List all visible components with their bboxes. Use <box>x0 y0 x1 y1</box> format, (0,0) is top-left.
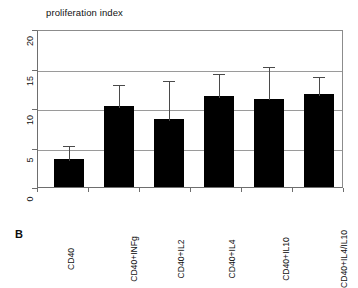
x-axis-tick-0 <box>37 188 38 192</box>
error-bar-stem-cd40-il2 <box>169 81 170 121</box>
panel-label: B <box>15 228 23 240</box>
error-bar-stem-cd40 <box>69 146 70 160</box>
x-axis-label-cd40-il2-text: CD40+IL2 <box>176 240 186 279</box>
x-axis-tick-6 <box>343 188 344 192</box>
x-axis-label-cd40-il4: CD40+IL4 <box>211 193 225 259</box>
error-bar-cap-cd40-il4 <box>213 74 225 75</box>
y-axis-label-0-text: 0 <box>24 188 36 210</box>
error-bar-cap-cd40-infg <box>113 85 125 86</box>
y-axis-label-5-text: 5 <box>24 149 36 171</box>
x-axis-tick-5 <box>292 188 293 192</box>
error-bar-cap-cd40 <box>63 146 75 147</box>
x-axis-tick-1 <box>88 188 89 192</box>
error-bar-cap-cd40-il10 <box>263 67 275 68</box>
x-axis-tick-4 <box>241 188 242 192</box>
x-axis-label-cd40-infg: CD40+INFg <box>109 193 123 259</box>
y-axis-label-0: 0 <box>8 182 30 194</box>
y-axis-label-10-text: 10 <box>24 109 36 131</box>
x-axis-label-cd40: CD40 <box>58 193 72 259</box>
bar-cd40-il4 <box>204 96 234 187</box>
bar-cd40-il2 <box>154 119 184 187</box>
plot-area <box>37 30 343 188</box>
y-axis-label-5: 5 <box>8 143 30 155</box>
y-axis-label-20: 20 <box>8 24 30 36</box>
gridline-5 <box>38 150 342 151</box>
chart-title: proliferation index <box>46 7 123 19</box>
error-bar-cap-cd40-il4-il10 <box>313 77 325 78</box>
y-axis-label-20-text: 20 <box>24 30 36 52</box>
x-axis-tick-2 <box>139 188 140 192</box>
error-bar-cap-cd40-il2 <box>163 81 175 82</box>
x-axis-tick-3 <box>190 188 191 192</box>
error-bar-stem-cd40-il4 <box>219 74 220 98</box>
x-axis-label-cd40-text: CD40 <box>66 248 76 270</box>
bar-cd40-infg <box>104 106 134 187</box>
y-axis-label-10: 10 <box>8 103 30 115</box>
x-axis-label-cd40-il10: CD40+IL10 <box>262 193 276 259</box>
bar-cd40-il10 <box>254 99 284 188</box>
bar-cd40-il4-il10 <box>304 94 334 187</box>
x-axis-label-cd40-il10-text: CD40+IL10 <box>281 237 291 281</box>
gridline-10 <box>38 110 342 111</box>
gridline-15 <box>38 71 342 72</box>
error-bar-stem-cd40-infg <box>119 85 120 108</box>
y-axis-label-15: 15 <box>8 64 30 76</box>
x-axis-label-cd40-il4-text: CD40+IL4 <box>227 240 237 279</box>
y-axis-label-15-text: 15 <box>24 70 36 92</box>
x-axis-label-cd40-infg-text: CD40+INFg <box>129 236 139 282</box>
x-axis-label-cd40-il4-il10: CD40+IL4/IL10 <box>313 193 327 259</box>
error-bar-stem-cd40-il4-il10 <box>319 77 320 95</box>
bar-cd40 <box>54 159 84 187</box>
error-bar-stem-cd40-il10 <box>269 67 270 100</box>
x-axis-label-cd40-il4-il10-text: CD40+IL4/IL10 <box>339 230 349 288</box>
x-axis-label-cd40-il2: CD40+IL2 <box>160 193 174 259</box>
